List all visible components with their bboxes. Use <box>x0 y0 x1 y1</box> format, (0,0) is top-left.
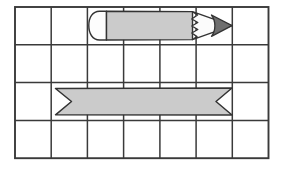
pencil-body <box>107 11 193 40</box>
pencil-eraser <box>89 11 107 40</box>
pencil-banner-grid-figure <box>0 0 283 170</box>
banner-shape <box>56 88 233 115</box>
banner <box>56 88 233 115</box>
diagram-canvas <box>0 0 283 170</box>
